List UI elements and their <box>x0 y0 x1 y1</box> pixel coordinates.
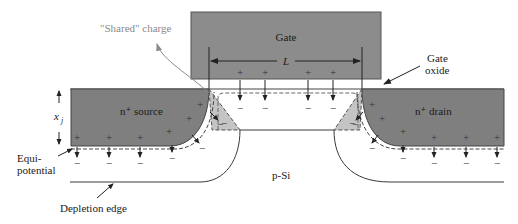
svg-text:+: + <box>400 125 406 137</box>
svg-text:+: + <box>463 131 469 143</box>
gate-electrode: Gate <box>191 12 381 79</box>
substrate-label: p-Si <box>272 169 290 181</box>
equipotential-annotation: Equi- potential <box>17 149 72 176</box>
svg-text:+: + <box>262 66 268 78</box>
svg-text:+: + <box>186 112 192 124</box>
svg-text:−: − <box>237 102 243 114</box>
svg-text:+: + <box>106 131 112 143</box>
channel-length-label: L <box>282 55 289 67</box>
source-label: n⁺ source <box>120 105 163 117</box>
drain-label: n⁺ drain <box>415 105 452 117</box>
svg-text:+: + <box>431 131 437 143</box>
svg-text:+: + <box>166 125 172 137</box>
svg-text:−: − <box>74 157 80 169</box>
svg-text:−: − <box>349 117 355 129</box>
svg-text:−: − <box>494 157 500 169</box>
junction-depth-dimension: x j <box>53 91 64 144</box>
channel-charges: − − − − − − <box>221 80 355 129</box>
svg-text:+: + <box>379 112 385 124</box>
svg-text:Gate: Gate <box>427 52 448 64</box>
mosfet-charge-sharing-diagram: Gate L + + + + n⁺ source n⁺ drain <box>0 0 518 224</box>
svg-text:+: + <box>237 66 243 78</box>
svg-text:x: x <box>53 110 59 122</box>
svg-text:Depletion edge: Depletion edge <box>60 202 127 214</box>
svg-text:oxide: oxide <box>425 64 450 76</box>
svg-text:−: − <box>463 157 469 169</box>
svg-text:+: + <box>494 131 500 143</box>
svg-text:−: − <box>106 157 112 169</box>
svg-text:−: − <box>330 102 336 114</box>
svg-text:potential: potential <box>17 164 56 176</box>
svg-text:−: − <box>369 142 375 154</box>
svg-text:−: − <box>431 157 437 169</box>
svg-text:+: + <box>369 98 375 110</box>
svg-text:j: j <box>60 116 64 125</box>
svg-text:−: − <box>169 152 175 164</box>
gate-oxide-annotation: Gate oxide <box>384 52 450 84</box>
svg-text:−: − <box>305 102 311 114</box>
svg-text:+: + <box>305 66 311 78</box>
svg-text:+: + <box>74 131 80 143</box>
svg-text:Equi-: Equi- <box>17 152 42 164</box>
svg-text:−: − <box>400 152 406 164</box>
svg-text:+: + <box>137 131 143 143</box>
shared-charge-label: "Shared" charge <box>100 22 172 34</box>
svg-text:−: − <box>137 157 143 169</box>
depletion-edge-annotation: Depletion edge <box>60 184 127 214</box>
svg-text:−: − <box>262 102 268 114</box>
svg-text:+: + <box>197 98 203 110</box>
svg-text:+: + <box>330 66 336 78</box>
svg-text:−: − <box>221 117 227 129</box>
gate-label: Gate <box>276 31 297 43</box>
svg-text:−: − <box>199 142 205 154</box>
